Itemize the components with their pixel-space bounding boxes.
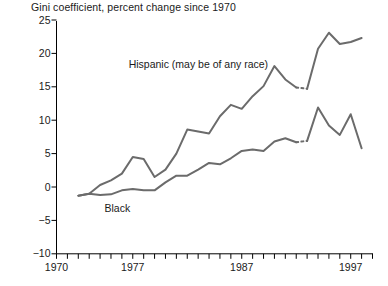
series-label-black: Black: [105, 202, 131, 214]
chart-plot-area: [0, 0, 388, 286]
series-line-black-break: [296, 141, 307, 142]
series-line-hispanic-break: [296, 87, 307, 88]
series-line-hispanic: [307, 33, 361, 89]
gini-coefficient-line-chart: Gini coefficient, percent change since 1…: [0, 0, 388, 286]
x-axis-tick-label: 1987: [222, 262, 262, 272]
y-axis-tick-label: −5: [25, 215, 51, 225]
x-axis-tick-label: 1997: [331, 262, 371, 272]
x-axis-tick-label: 1970: [37, 262, 77, 272]
series-label-hispanic: Hispanic (may be of any race): [129, 58, 268, 70]
y-axis-tick-label: 15: [25, 81, 51, 91]
series-line-black: [78, 138, 296, 195]
y-axis-tick-label: 10: [25, 115, 51, 125]
chart-title: Gini coefficient, percent change since 1…: [31, 1, 236, 13]
y-axis-tick-label: 25: [25, 15, 51, 25]
y-axis-tick-label: 0: [25, 182, 51, 192]
series-line-black: [307, 108, 361, 149]
y-axis-tick-label: 20: [25, 48, 51, 58]
x-axis-tick-label: 1977: [113, 262, 153, 272]
y-axis-tick-label: 5: [25, 148, 51, 158]
y-axis-tick-label: −10: [25, 248, 51, 258]
